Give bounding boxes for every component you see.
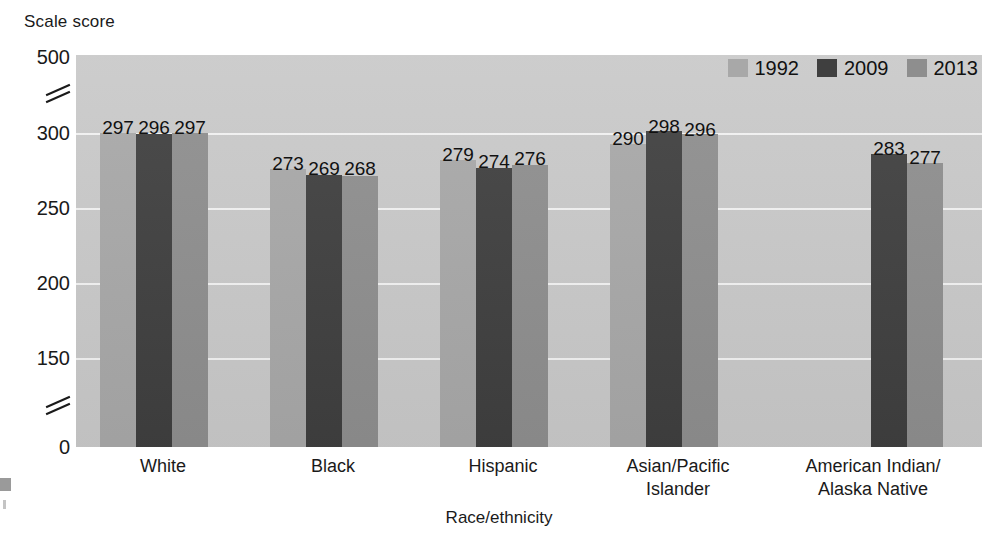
bar-white-2009[interactable]	[136, 134, 172, 447]
legend-item-1992[interactable]: 1992	[728, 58, 800, 78]
bar-american-indian-2013[interactable]	[907, 163, 943, 447]
y-tick-300: 300	[2, 123, 70, 143]
bar-hispanic-1992[interactable]	[440, 160, 476, 447]
bar-asian-2013[interactable]	[682, 134, 718, 447]
bar-white-1992[interactable]	[100, 133, 136, 447]
legend-swatch-2009-icon	[817, 59, 837, 77]
legend-item-2013[interactable]: 2013	[907, 58, 979, 78]
x-category-label-asian-line1: Asian/Pacific	[588, 455, 768, 478]
bar-hispanic-2009[interactable]	[476, 168, 512, 447]
x-category-label-black-line1: Black	[248, 455, 418, 478]
bar-value-american-indian-2013: 277	[889, 148, 961, 167]
bar-value-black-2013: 268	[324, 159, 396, 178]
bar-asian-2009[interactable]	[646, 131, 682, 447]
x-category-label-hispanic-line1: Hispanic	[418, 455, 588, 478]
x-category-label-american-indian-line2: Alaska Native	[768, 478, 978, 501]
bar-hispanic-2013[interactable]	[512, 165, 548, 447]
x-category-label-american-indian-line1: American Indian/	[768, 455, 978, 478]
bar-value-asian-2013: 296	[664, 120, 736, 139]
bar-black-2013[interactable]	[342, 176, 378, 447]
axis-break-lower-icon	[42, 395, 72, 417]
legend: 1992 2009 2013	[728, 58, 979, 78]
x-category-label-asian: Asian/Pacific Islander	[588, 455, 768, 500]
legend-label-2009: 2009	[844, 58, 889, 78]
scan-artifact-mark-secondary	[3, 500, 6, 509]
y-tick-150: 150	[2, 348, 70, 368]
legend-swatch-2013-icon	[907, 59, 927, 77]
bar-value-hispanic-2013: 276	[494, 149, 566, 168]
y-axis-tick-labels: 500 300 250 200 150 0	[0, 0, 70, 542]
legend-swatch-1992-icon	[728, 59, 748, 77]
bar-white-2013[interactable]	[172, 133, 208, 447]
x-category-label-white: White	[78, 455, 248, 478]
y-tick-200: 200	[2, 273, 70, 293]
y-tick-0: 0	[2, 437, 70, 457]
bar-black-2009[interactable]	[306, 175, 342, 447]
bar-value-white-2013: 297	[154, 118, 226, 137]
x-category-label-asian-line2: Islander	[588, 478, 768, 501]
x-category-label-hispanic: Hispanic	[418, 455, 588, 478]
y-tick-500: 500	[2, 47, 70, 67]
axis-break-upper-icon	[42, 83, 72, 105]
y-tick-250: 250	[2, 198, 70, 218]
legend-item-2009[interactable]: 2009	[817, 58, 889, 78]
x-category-label-black: Black	[248, 455, 418, 478]
legend-label-1992: 1992	[755, 58, 800, 78]
plot-area	[76, 55, 982, 447]
x-axis-title: Race/ethnicity	[0, 508, 998, 528]
scan-artifact-mark	[0, 478, 11, 491]
legend-label-2013: 2013	[934, 58, 979, 78]
x-category-label-white-line1: White	[78, 455, 248, 478]
bar-american-indian-2009[interactable]	[871, 154, 907, 447]
x-category-label-american-indian: American Indian/ Alaska Native	[768, 455, 978, 500]
bar-asian-1992[interactable]	[610, 144, 646, 447]
bar-black-1992[interactable]	[270, 169, 306, 447]
